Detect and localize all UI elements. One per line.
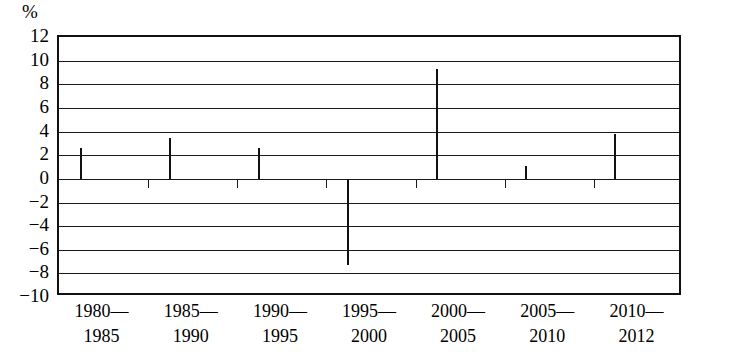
x-tick-label: 1995—2000: [342, 299, 396, 349]
x-tick-label-line1: 1990—: [253, 301, 307, 321]
x-tick-label-line1: 1985—: [164, 301, 218, 321]
axis-tick: [326, 179, 327, 188]
x-tick-label-line1: 1995—: [342, 301, 396, 321]
x-tick-label-line2: 2010: [520, 324, 574, 349]
x-tick-label-line2: 2000: [342, 324, 396, 349]
y-tick-label: −10: [19, 286, 49, 305]
x-tick-label: 2010—2012: [609, 299, 663, 349]
x-tick-label: 2000—2005: [431, 299, 485, 349]
axis-tick: [505, 179, 506, 188]
y-tick-label: 12: [30, 26, 49, 45]
y-tick-label: 0: [40, 167, 50, 186]
bar-series: [59, 37, 679, 293]
x-tick-label-line2: 2012: [609, 324, 663, 349]
x-tick-label-line2: 2005: [431, 324, 485, 349]
x-tick-label-line2: 1985: [75, 324, 129, 349]
axis-tick: [594, 179, 595, 188]
y-tick-label: −8: [29, 262, 49, 281]
y-tick-label: 4: [40, 120, 50, 139]
x-tick-label: 1985—1990: [164, 299, 218, 349]
x-tick-label: 2005—2010: [520, 299, 574, 349]
bar: [80, 148, 82, 179]
bar: [614, 134, 616, 179]
bar: [347, 179, 349, 265]
bar: [258, 148, 260, 179]
bar: [525, 166, 527, 179]
y-tick-label: −2: [29, 191, 49, 210]
x-tick-label-line1: 2010—: [609, 301, 663, 321]
x-tick-label: 1990—1995: [253, 299, 307, 349]
axis-tick: [148, 179, 149, 188]
x-axis-tick-labels: 1980—19851985—19901990—19951995—20002000…: [57, 299, 681, 355]
x-tick-label-line1: 2000—: [431, 301, 485, 321]
x-tick-label-line2: 1990: [164, 324, 218, 349]
axis-tick: [416, 179, 417, 188]
x-tick-label-line1: 1980—: [75, 301, 129, 321]
plot-area: [57, 35, 681, 295]
x-tick-label: 1980—1985: [75, 299, 129, 349]
y-tick-label: −4: [29, 215, 49, 234]
y-tick-label: 10: [30, 49, 49, 68]
bar: [436, 69, 438, 179]
y-tick-label: −6: [29, 238, 49, 257]
x-tick-label-line1: 2005—: [520, 301, 574, 321]
y-axis-tick-labels: 121086420−2−4−6−8−10: [0, 0, 57, 355]
y-tick-label: 2: [40, 144, 50, 163]
bar-chart: % 121086420−2−4−6−8−10 1980—19851985—199…: [0, 0, 737, 355]
bar: [169, 138, 171, 179]
axis-tick: [237, 179, 238, 188]
y-tick-label: 6: [40, 96, 50, 115]
x-tick-label-line2: 1995: [253, 324, 307, 349]
y-tick-label: 8: [40, 73, 50, 92]
